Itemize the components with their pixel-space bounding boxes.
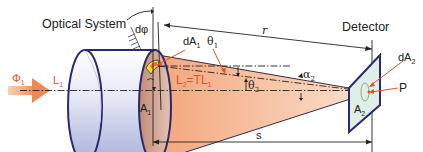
dA1-label: dA1 [183, 36, 200, 49]
detector-plate [349, 55, 380, 132]
theta1-label: θ1 [207, 36, 218, 50]
L1-label: L1 [53, 75, 63, 88]
detector-label: Detector [342, 21, 389, 34]
r-label: r [262, 25, 267, 36]
phi1-label: Φ1 [12, 73, 25, 86]
optical-system-cylinder [68, 50, 171, 152]
optical-system-label: Optical System [42, 18, 126, 31]
A2-label: A2 [354, 104, 365, 117]
L2-equation-label: L2=TL1 [176, 74, 212, 88]
point-P-label: P [399, 82, 407, 94]
s-label: s [256, 130, 262, 141]
theta2-label: θ2 [248, 80, 259, 94]
dA2-label: dA2 [398, 52, 415, 65]
alpha2-label: α2 [303, 69, 315, 83]
A1-label: A1 [140, 103, 151, 116]
d-phi-label: dφ [135, 24, 148, 35]
